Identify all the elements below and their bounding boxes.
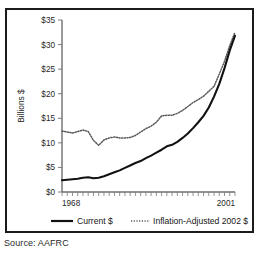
y-axis-tick-label: $20 xyxy=(41,90,55,99)
x-axis: 1968 2001 xyxy=(62,192,235,208)
y-axis: $0$5$10$15$20$25$30$35 xyxy=(41,16,62,197)
series-line-inflation-adjusted xyxy=(62,32,235,145)
y-axis-tick-label: $5 xyxy=(46,163,56,172)
y-axis-tick-labels: $0$5$10$15$20$25$30$35 xyxy=(41,16,55,197)
series-line-current xyxy=(62,36,235,180)
y-axis-tick-label: $35 xyxy=(41,16,55,25)
plot-series xyxy=(62,32,235,180)
y-axis-tick-label: $0 xyxy=(46,188,56,197)
y-axis-tick-label: $30 xyxy=(41,41,55,50)
chart-legend: Current $ Inflation-Adjusted 2002 $ xyxy=(51,216,248,226)
y-axis-tick-label: $15 xyxy=(41,114,55,123)
chart-figure: $0$5$10$15$20$25$30$35 1968 2001 Billion… xyxy=(0,0,265,258)
legend-label-inflation-adjusted: Inflation-Adjusted 2002 $ xyxy=(153,216,248,226)
y-axis-tick-label: $10 xyxy=(41,139,55,148)
legend-label-current: Current $ xyxy=(77,216,113,226)
x-axis-start-label: 1968 xyxy=(62,199,81,208)
y-axis-tick-label: $25 xyxy=(41,65,55,74)
y-axis-title: Billions $ xyxy=(16,89,26,123)
line-chart: $0$5$10$15$20$25$30$35 1968 2001 Billion… xyxy=(7,10,252,231)
source-caption: Source: AAFRC xyxy=(4,238,69,248)
chart-frame: $0$5$10$15$20$25$30$35 1968 2001 Billion… xyxy=(5,8,254,233)
x-axis-end-label: 2001 xyxy=(217,199,236,208)
